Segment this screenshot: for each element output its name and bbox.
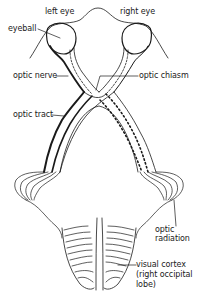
label-optic-chiasm: optic chiasm bbox=[139, 71, 189, 80]
right-optic-nerve-inner bbox=[99, 48, 124, 92]
left-optic-tract-outer bbox=[44, 92, 84, 172]
label-optic-tract: optic tract bbox=[13, 110, 53, 119]
right-cortex-striations bbox=[106, 226, 134, 282]
occipital-lobe-outline bbox=[62, 228, 94, 289]
label-left-eye: left eye bbox=[45, 7, 74, 16]
optic-radiation-leader bbox=[174, 200, 176, 226]
diagram-artwork bbox=[0, 0, 198, 298]
label-optic-radiation-1: optic bbox=[155, 225, 174, 234]
label-eyeball: eyeball bbox=[8, 24, 36, 33]
eyeball-leader bbox=[38, 29, 60, 38]
label-optic-nerve: optic nerve bbox=[13, 71, 57, 80]
label-right-eye: right eye bbox=[120, 7, 155, 16]
right-optic-tract-dotted-1 bbox=[106, 94, 148, 172]
left-optic-nerve-outer bbox=[50, 46, 84, 92]
label-visual-cortex-2: (right occipital bbox=[136, 270, 192, 279]
label-visual-cortex-3: lobe) bbox=[136, 280, 156, 289]
right-optic-nerve-outer bbox=[114, 46, 148, 92]
crossing-fibre-thin bbox=[60, 92, 114, 172]
visual-pathway-diagram: left eye right eye eyeball optic nerve o… bbox=[0, 0, 198, 298]
chiasm-crossing-line bbox=[84, 92, 106, 98]
midline-left bbox=[96, 218, 97, 290]
midline-right bbox=[102, 218, 103, 290]
left-cortex-striations bbox=[64, 226, 93, 282]
left-optic-nerve-inner bbox=[74, 48, 99, 92]
label-visual-cortex-1: visual cortex bbox=[136, 260, 186, 269]
optic-tract-leader bbox=[52, 115, 64, 116]
left-optic-radiation bbox=[15, 172, 62, 238]
right-eyeball bbox=[122, 23, 151, 54]
label-optic-radiation-2: radiation bbox=[155, 234, 190, 243]
